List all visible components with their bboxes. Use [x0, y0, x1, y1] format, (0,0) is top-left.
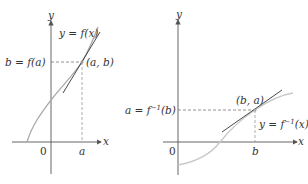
point-b-a	[254, 109, 257, 112]
right-x-axis-label: x	[298, 135, 304, 147]
function-curve-f	[27, 27, 98, 142]
left-x-tick-label: a	[79, 145, 85, 157]
left-point-label: (a, b)	[86, 56, 114, 68]
right-curve-prefix: y = f	[258, 118, 286, 130]
left-panel: y x 0 a b = f(a) (a, b) y = f(x)	[5, 9, 114, 174]
right-curve-sup: −1	[284, 118, 294, 126]
inverse-function-diagram: y x 0 a b = f(a) (a, b) y = f(x) y x 0 b…	[0, 0, 308, 184]
right-point-label: (b, a)	[236, 94, 264, 106]
right-curve-suffix: (x)	[295, 118, 308, 130]
right-x-tick-label: b	[252, 145, 259, 157]
point-a-b	[81, 61, 84, 64]
right-curve-label: y = f−1(x)	[258, 118, 308, 130]
right-y-value-sup: −1	[151, 104, 161, 112]
right-y-value-suffix: (b)	[161, 104, 176, 116]
left-y-value-label: b = f(a)	[5, 56, 46, 68]
right-origin-label: 0	[169, 145, 176, 157]
right-y-axis-label: y	[175, 8, 183, 20]
right-y-value-prefix: a = f	[125, 104, 153, 116]
left-y-axis-label: y	[47, 9, 55, 21]
left-x-axis-label: x	[103, 135, 109, 147]
right-panel: y x 0 b a = f−1(b) (b, a) y = f−1(x)	[125, 8, 308, 175]
right-y-value-label: a = f−1(b)	[125, 104, 176, 116]
left-curve-label: y = f(x)	[58, 27, 98, 39]
left-origin-label: 0	[40, 145, 47, 157]
